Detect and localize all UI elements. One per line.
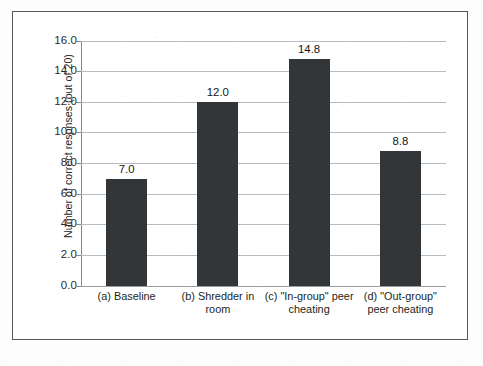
bar-value-label: 12.0: [188, 86, 248, 98]
y-axis-tick-mark: [76, 224, 81, 225]
gridline: [81, 132, 446, 133]
bar[interactable]: [197, 102, 238, 286]
y-axis-tick-mark: [76, 132, 81, 133]
bar-value-label: 8.8: [370, 135, 430, 147]
x-axis-category-labels: (a) Baseline(b) Shredder in room(c) "In-…: [81, 290, 449, 336]
gridline: [81, 41, 446, 42]
y-axis-tick-mark: [76, 255, 81, 256]
y-axis-tick-mark: [76, 41, 81, 42]
figure-root: Number of correct respnses (out of 20) 0…: [0, 0, 483, 366]
plot-area: 7.012.014.88.8: [81, 41, 446, 286]
y-axis-tick-label: 14.0: [54, 64, 77, 76]
y-axis-tick-label: 6.0: [61, 187, 77, 199]
y-axis-tick-label: 10.0: [54, 125, 77, 137]
bar[interactable]: [380, 151, 421, 286]
y-axis-tick-mark: [76, 163, 81, 164]
bar-value-label: 14.8: [279, 43, 339, 55]
y-axis-tick-mark: [76, 102, 81, 103]
gridline: [81, 102, 446, 103]
chart-figure-frame: Number of correct respnses (out of 20) 0…: [12, 11, 468, 340]
y-axis-tick-label: 4.0: [61, 217, 77, 229]
y-axis-tick-mark: [76, 194, 81, 195]
y-axis-tick-label: 12.0: [54, 95, 77, 107]
x-axis-category-label: (c) "In-group" peer cheating: [264, 290, 355, 317]
y-axis-tick-label: 8.0: [61, 156, 77, 168]
y-axis-tick-labels: 0.02.04.06.08.010.012.014.016.0: [31, 41, 77, 286]
y-axis-tick-label: 0.0: [61, 279, 77, 291]
y-axis-tick-label: 2.0: [61, 248, 77, 260]
bar-value-label: 7.0: [97, 163, 157, 175]
x-axis-category-label: (d) "Out-group" peer cheating: [355, 290, 446, 317]
y-axis-tick-label: 16.0: [54, 34, 77, 46]
y-axis-tick-mark: [76, 71, 81, 72]
bar[interactable]: [289, 59, 330, 286]
x-axis-category-label: (b) Shredder in room: [172, 290, 263, 317]
y-axis-tick-mark: [76, 286, 81, 287]
bar[interactable]: [106, 179, 147, 286]
gridline: [81, 71, 446, 72]
x-axis-category-label: (a) Baseline: [81, 290, 172, 303]
